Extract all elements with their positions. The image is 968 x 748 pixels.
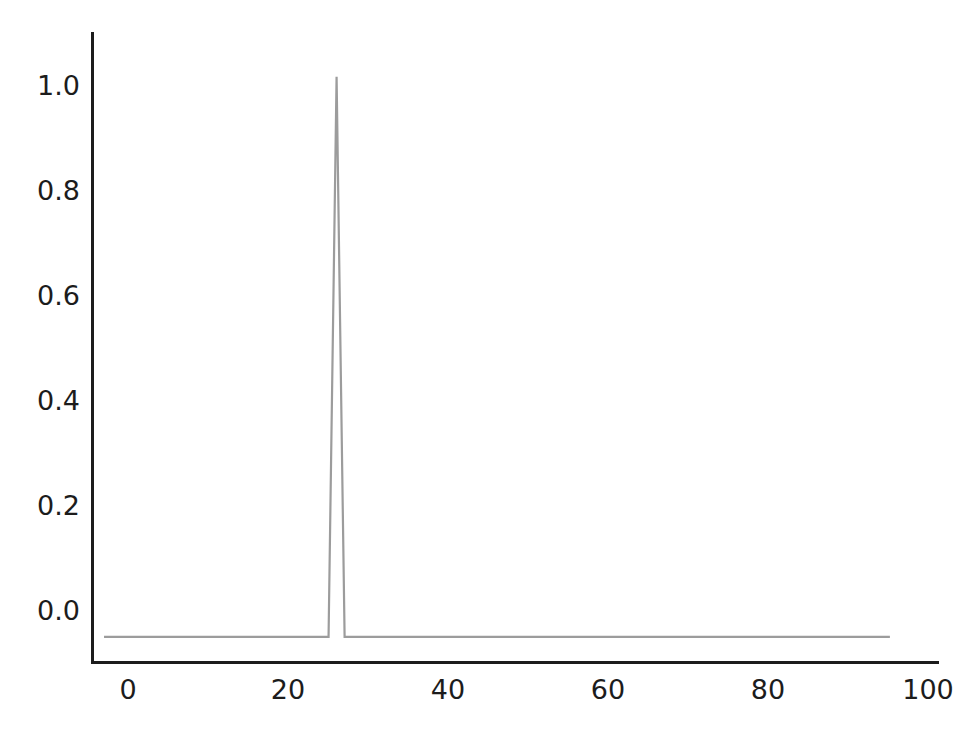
x-tick-label-2: 40 [431, 676, 465, 703]
y-axis-spine [91, 32, 94, 664]
plot-area [92, 32, 938, 662]
y-tick-label-3: 0.6 [37, 282, 80, 309]
y-tick-label-4: 0.8 [37, 177, 80, 204]
y-tick-label-2: 0.4 [37, 387, 80, 414]
x-tick-label-3: 60 [591, 676, 625, 703]
x-tick-label-5: 100 [902, 676, 954, 703]
x-tick-label-0: 0 [119, 676, 136, 703]
x-tick-label-1: 20 [271, 676, 305, 703]
impulse-series-line [104, 77, 890, 637]
x-axis-spine [91, 661, 939, 664]
y-tick-label-5: 1.0 [37, 72, 80, 99]
chart-figure: 0.0 0.2 0.4 0.6 0.8 1.0 0 20 40 60 80 10… [0, 0, 968, 748]
y-tick-label-1: 0.2 [37, 492, 80, 519]
data-line-svg [92, 32, 938, 662]
x-tick-label-4: 80 [751, 676, 785, 703]
y-tick-label-0: 0.0 [37, 597, 80, 624]
